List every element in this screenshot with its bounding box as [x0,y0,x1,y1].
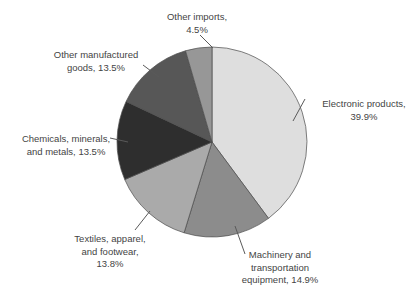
slice-label-line: Machinery and [242,249,319,262]
slice-label-other-imports: Other imports, 4.5% [167,11,227,36]
slice-label-line: Chemicals, minerals, [22,133,110,146]
pie-chart-figure: Electronic products, 39.9% Machinery and… [0,0,414,294]
slice-label-line: Other manufactured [54,49,139,62]
slice-label-chemicals-minerals-metals: Chemicals, minerals, and metals, 13.5% [22,133,110,158]
slice-label-line: Electronic products, [322,98,405,111]
leader-line-textiles-apparel-and-footwear [135,211,150,230]
pie-slices [117,47,307,237]
slice-label-line: equipment, 14.9% [242,274,319,287]
slice-label-line: and footwear, [74,246,145,259]
slice-label-machinery-transportation-equipment: Machinery and transportation equipment, … [242,249,319,287]
slice-label-line: Other imports, [167,11,227,24]
slice-label-line: Textiles, apparel, [74,233,145,246]
slice-label-textiles-apparel-footwear: Textiles, apparel, and footwear, 13.8% [74,233,145,271]
slice-label-line: and metals, 13.5% [22,146,110,159]
slice-label-electronic-products: Electronic products, 39.9% [322,98,405,123]
leader-line-other-imports [200,35,213,48]
slice-label-line: 13.8% [74,258,145,271]
slice-label-line: 39.9% [322,111,405,124]
slice-label-other-manufactured-goods: Other manufactured goods, 13.5% [54,49,139,74]
slice-label-line: transportation [242,262,319,275]
slice-label-line: goods, 13.5% [54,62,139,75]
slice-label-line: 4.5% [167,24,227,37]
